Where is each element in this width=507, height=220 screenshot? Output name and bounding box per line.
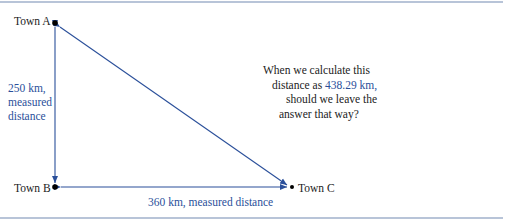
- question-text: distance as: [272, 79, 325, 91]
- distance-comma: ,: [374, 79, 377, 91]
- town-c-dot: [290, 185, 294, 189]
- question-line: distance as 438.29 km,: [218, 78, 377, 93]
- question-line: should we leave the: [218, 92, 377, 107]
- distance-number: 438.29 km: [325, 79, 374, 91]
- vertical-label-line: distance: [8, 109, 68, 123]
- horizontal-distance-label: 360 km, measured distance: [148, 195, 273, 209]
- town-c-label: Town C: [298, 181, 335, 195]
- town-b-dot: [52, 184, 58, 190]
- vertical-label-line: 250 km,: [8, 81, 68, 95]
- vertical-distance-label: 250 km, measured distance: [8, 81, 68, 123]
- town-a-label: Town A: [14, 14, 51, 28]
- question-line: When we calculate this: [218, 63, 377, 78]
- distance-value: 438.29 km,: [325, 79, 377, 91]
- town-a-dot: [52, 20, 58, 26]
- vertical-label-line: measured: [8, 95, 68, 109]
- town-b-label: Town B: [14, 181, 51, 195]
- question-line: answer that way?: [218, 107, 377, 122]
- question-callout: When we calculate this distance as 438.2…: [218, 63, 377, 121]
